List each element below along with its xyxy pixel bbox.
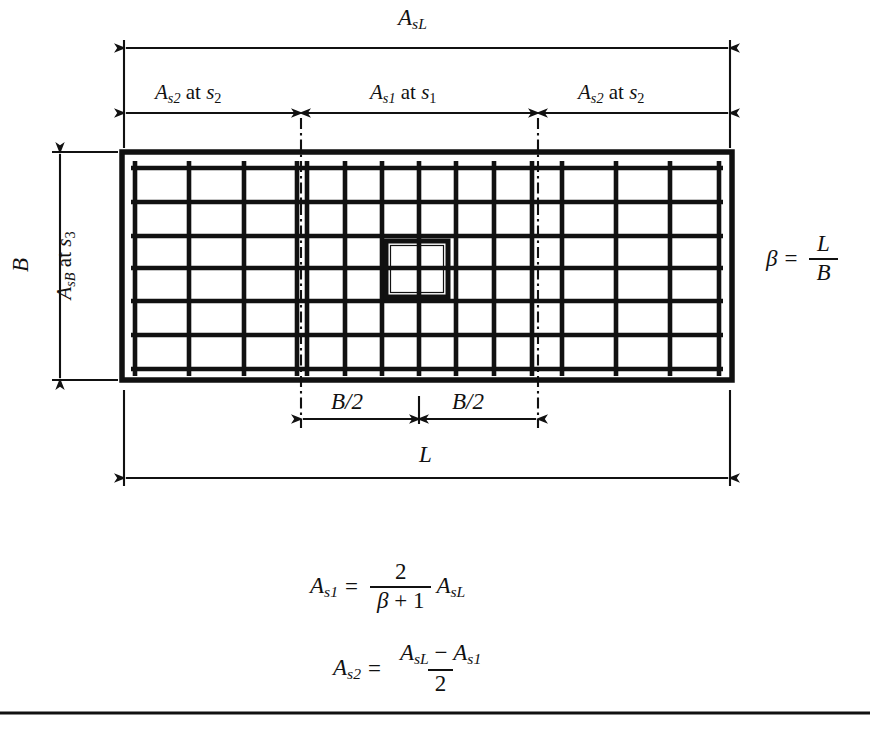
figure-canvas: AsL As2 at s2 As1 at s1 As2 at s2 B AsB … <box>0 0 870 736</box>
formula-as1: As1 = 2 β + 1 AsL <box>310 560 465 614</box>
label-bhalf-left: B/2 <box>331 389 363 415</box>
label-asb-spacing: AsB at s3 <box>52 231 79 299</box>
extension-lines-bottom <box>124 390 730 486</box>
label-b: B <box>8 258 34 272</box>
label-zone-center: As1 at s1 <box>370 80 437 107</box>
formula-beta: β = L B <box>766 232 843 286</box>
label-l: L <box>419 442 432 468</box>
label-zone-left: As2 at s2 <box>155 80 222 107</box>
label-asl: AsL <box>398 5 427 33</box>
formula-as2: As2 = AsL − As1 2 <box>333 641 493 697</box>
label-bhalf-right: B/2 <box>452 389 484 415</box>
label-zone-right: As2 at s2 <box>578 80 645 107</box>
diagram-geometry <box>0 0 870 736</box>
